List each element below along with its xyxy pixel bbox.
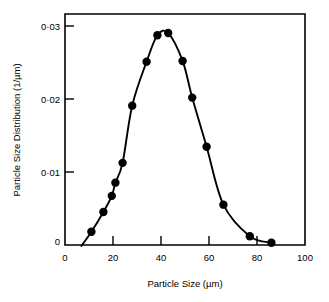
y-axis-title: Particle Size Distribution (1/µm): [11, 63, 22, 196]
chart-figure: 0·03 0·02 0·01 0 0 20 40 60 80 100 Parti…: [0, 0, 329, 302]
x-axis-ticks: [113, 236, 257, 245]
data-point: [111, 178, 119, 186]
data-point: [188, 93, 196, 101]
data-point: [202, 143, 210, 151]
data-point: [178, 57, 186, 65]
data-point: [219, 200, 227, 208]
y-tick-label-3: 0·03: [41, 21, 60, 32]
x-tick-label-0: 0: [62, 252, 67, 263]
y-tick-labels: 0·03 0·02 0·01 0: [41, 21, 60, 247]
data-point: [246, 232, 254, 240]
data-point: [128, 101, 136, 109]
data-curve: [81, 31, 271, 246]
y-axis-ticks: [65, 26, 74, 172]
chart-canvas: 0·03 0·02 0·01 0 0 20 40 60 80 100 Parti…: [0, 0, 329, 302]
x-tick-labels: 0 20 40 60 80 100: [62, 252, 313, 263]
x-tick-label-20: 20: [108, 252, 119, 263]
data-point: [99, 208, 107, 216]
data-point: [108, 192, 116, 200]
data-point: [267, 239, 275, 247]
x-tick-label-80: 80: [252, 252, 263, 263]
x-tick-label-60: 60: [204, 252, 215, 263]
data-point: [142, 57, 150, 65]
data-point: [164, 29, 172, 37]
data-points-group: [87, 29, 275, 247]
y-tick-label-2: 0·02: [41, 94, 60, 105]
data-point: [153, 31, 161, 39]
data-point: [118, 159, 126, 167]
x-tick-label-40: 40: [156, 252, 167, 263]
y-tick-label-1: 0·01: [41, 167, 60, 178]
y-tick-label-0: 0: [55, 236, 60, 247]
data-point: [87, 228, 95, 236]
x-axis-title: Particle Size (µm): [147, 278, 222, 289]
x-tick-label-100: 100: [297, 252, 313, 263]
